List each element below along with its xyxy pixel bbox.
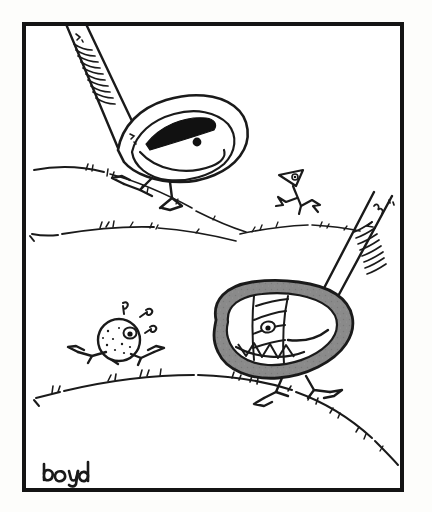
driver-club-pupil [265, 325, 270, 330]
cartoon-page: boyd [0, 0, 432, 512]
cartoon-svg: boyd [0, 0, 432, 512]
golf-tee-pupil [294, 176, 297, 179]
cartoon-artwork: boyd [0, 0, 432, 512]
iron-club-pupil [193, 138, 202, 147]
artwork-paper [24, 24, 402, 490]
golf-ball-pupil [127, 331, 132, 336]
